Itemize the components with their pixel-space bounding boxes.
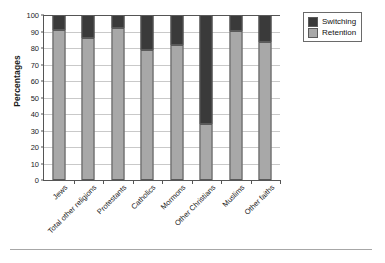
x-axis-label-text: Total other religions [45,183,99,237]
y-tick-label: 30 [31,126,39,135]
chart-legend: SwitchingRetention [303,12,362,42]
y-tick-label: 80 [31,44,39,53]
bar-slot [192,15,222,180]
y-tick-label: 20 [31,143,39,152]
plot-area: 0102030405060708090100 [43,15,280,181]
y-axis-title: Percentages [12,26,22,136]
x-axis-label: Mormons [158,183,188,213]
bar-segment-retention[interactable] [141,50,154,180]
bar-segment-retention[interactable] [82,38,95,180]
stacked-bar[interactable] [200,15,213,180]
bar-slot [44,15,74,180]
y-tick-label: 90 [31,27,39,36]
x-axis-label: Jews [49,183,69,203]
legend-swatch-icon [308,28,318,38]
bar-segment-retention[interactable] [259,42,272,180]
stacked-bar[interactable] [259,15,272,180]
bar-segment-retention[interactable] [111,28,124,180]
bar-segment-retention[interactable] [229,31,242,180]
y-tick-label: 40 [31,110,39,119]
x-axis-label: Muslims [219,183,246,210]
bar-segment-switching[interactable] [52,15,65,30]
bar-segment-switching[interactable] [170,15,183,45]
stacked-bar[interactable] [111,15,124,180]
stacked-bar[interactable] [170,15,183,180]
bar-slot [221,15,251,180]
legend-item-label: Retention [322,28,356,37]
bar-segment-switching[interactable] [200,15,213,124]
legend-item-label: Switching [322,17,356,26]
bar-slot [74,15,104,180]
stacked-bar[interactable] [229,15,242,180]
bar-slot [103,15,133,180]
bar-segment-switching[interactable] [82,15,95,38]
x-axis-label-text: Mormons [158,183,188,213]
y-tick-label: 0 [35,176,39,185]
x-axis-label-text: Jews [49,183,69,203]
x-axis-label: Protestants [94,183,129,218]
y-tick-label: 70 [31,60,39,69]
x-axis-label: Catholics [128,183,158,213]
y-tick-label: 10 [31,159,39,168]
bar-segment-switching[interactable] [141,15,154,50]
bar-slot [162,15,192,180]
bar-segment-switching[interactable] [259,15,272,42]
bars-layer [44,15,280,180]
bar-slot [133,15,163,180]
bar-segment-switching[interactable] [111,15,124,28]
y-tick-label: 50 [31,93,39,102]
bar-segment-retention[interactable] [200,124,213,180]
x-axis-label-text: Muslims [219,183,246,210]
y-tick-label: 100 [26,11,39,20]
stacked-bar[interactable] [141,15,154,180]
x-axis-label-text: Protestants [94,183,129,218]
bar-segment-retention[interactable] [52,30,65,180]
x-tick-mark [280,180,281,184]
bottom-divider [10,249,372,250]
x-axis-label-text: Catholics [128,183,158,213]
legend-item[interactable]: Retention [308,27,356,38]
chart-figure: Percentages 0102030405060708090100 JewsT… [0,0,385,263]
x-axis-label: Total other religions [45,183,99,237]
stacked-bar[interactable] [82,15,95,180]
y-tick-label: 60 [31,77,39,86]
bar-segment-retention[interactable] [170,45,183,180]
legend-item[interactable]: Switching [308,16,356,27]
bar-segment-switching[interactable] [229,15,242,31]
bar-slot [251,15,281,180]
legend-swatch-icon [308,17,318,27]
stacked-bar[interactable] [52,15,65,180]
x-axis-category-labels: JewsTotal other religionsProtestantsCath… [43,183,280,259]
